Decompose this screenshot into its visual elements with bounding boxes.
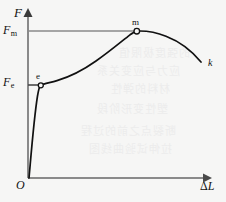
y-axis-arrowhead	[24, 8, 33, 17]
point-m-label: m	[132, 18, 139, 27]
fmax-axis-label: Fm	[3, 24, 17, 38]
point-e-label: e	[36, 72, 40, 81]
point-m-marker	[134, 28, 140, 34]
point-e-marker	[38, 83, 43, 88]
felastic-label-base: F	[3, 75, 10, 89]
force-elongation-chart	[0, 0, 226, 202]
origin-label: O	[16, 179, 25, 191]
fmax-label-base: F	[3, 23, 10, 37]
x-axis-label: ΔL	[200, 180, 214, 192]
felastic-label-subscript: e	[11, 81, 15, 90]
tensile-curve	[29, 31, 201, 178]
x-axis-label-delta: Δ	[200, 179, 208, 193]
x-axis-label-var: L	[208, 179, 215, 193]
fmax-label-subscript: m	[11, 29, 17, 38]
y-axis-label: F	[14, 6, 22, 19]
point-k-label: k	[208, 58, 212, 68]
felastic-axis-label: Fe	[3, 76, 14, 90]
